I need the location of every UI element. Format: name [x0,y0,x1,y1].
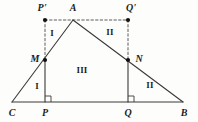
vertex-dot-layer [43,18,130,62]
vertex-dot-pp [43,18,47,22]
vertex-dot-m [43,58,47,62]
vertex-dot-n [126,58,130,62]
right-angle-at-P [45,96,51,102]
vertex-dot-qp [126,18,130,22]
geometry-diagram: CPQBAP'Q'MN IIIIIIIII [0,0,198,122]
side-CA [12,20,73,102]
right-angle-at-Q [128,96,134,102]
solid-segment-layer [12,20,183,102]
right-angle-marker-layer [45,96,134,102]
diagram-canvas [0,0,198,122]
